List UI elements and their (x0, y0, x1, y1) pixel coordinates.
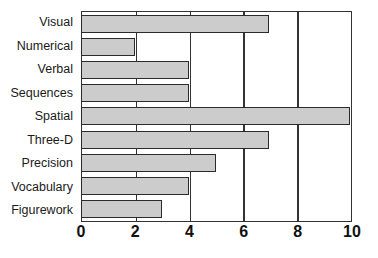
bar-row (82, 151, 351, 174)
bar (81, 84, 189, 102)
plot-area (81, 11, 352, 222)
category-label: Visual (0, 11, 77, 34)
bar (81, 200, 162, 218)
bar (81, 131, 269, 149)
category-label: Precision (0, 152, 77, 175)
category-label: Sequences (0, 81, 77, 104)
bar-chart: Visual Numerical Verbal Sequences Spatia… (0, 0, 378, 258)
bar (81, 107, 350, 125)
bar-row (82, 12, 351, 35)
bars-container (82, 12, 351, 221)
category-label: Three-D (0, 128, 77, 151)
value-tick-label: 8 (293, 224, 302, 240)
bar-row (82, 82, 351, 105)
category-label: Figurework (0, 199, 77, 222)
category-label: Spatial (0, 105, 77, 128)
value-tick-label: 2 (131, 224, 140, 240)
bar-row (82, 58, 351, 81)
bar (81, 154, 216, 172)
bar-row (82, 175, 351, 198)
value-tick-label: 4 (185, 224, 194, 240)
category-label: Verbal (0, 58, 77, 81)
category-axis-labels: Visual Numerical Verbal Sequences Spatia… (0, 11, 77, 222)
bar-row (82, 35, 351, 58)
bar (81, 61, 189, 79)
value-axis-labels: 0246810 (81, 224, 352, 254)
bar-row (82, 105, 351, 128)
bar (81, 38, 135, 56)
category-label: Numerical (0, 34, 77, 57)
category-label: Vocabulary (0, 175, 77, 198)
bar (81, 15, 269, 33)
bar-row (82, 128, 351, 151)
value-tick-label: 10 (343, 224, 361, 240)
bar (81, 177, 189, 195)
bar-row (82, 198, 351, 221)
value-tick-label: 6 (239, 224, 248, 240)
value-tick-label: 0 (77, 224, 86, 240)
